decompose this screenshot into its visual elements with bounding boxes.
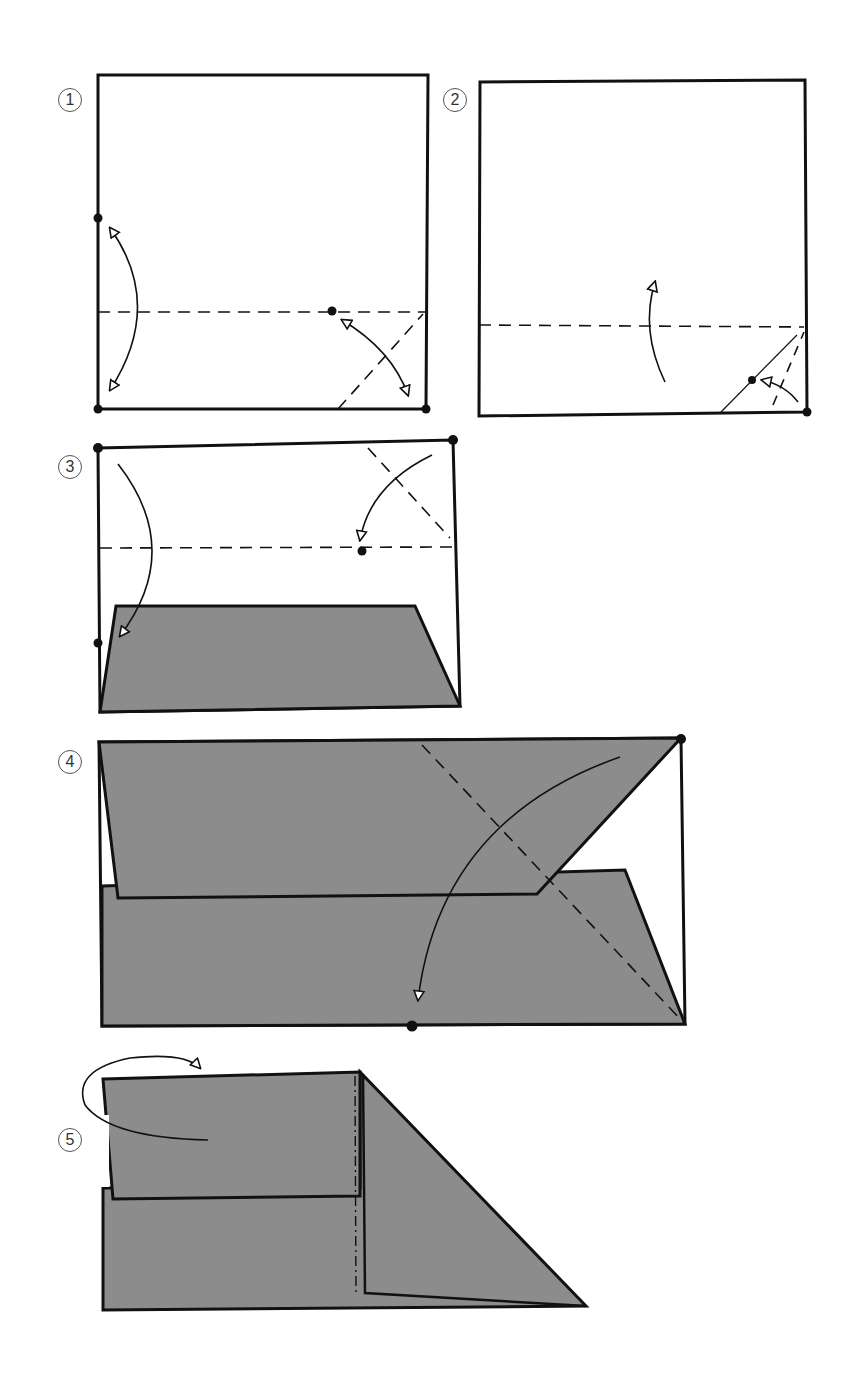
paper-square bbox=[98, 75, 428, 409]
reference-dot bbox=[358, 547, 367, 556]
step-5-diagram bbox=[83, 1056, 586, 1310]
step-number-2: 2 bbox=[443, 88, 467, 112]
reference-dot bbox=[94, 639, 103, 648]
paper-white-gap bbox=[100, 1115, 109, 1187]
reference-dot bbox=[93, 443, 103, 453]
step-3-diagram bbox=[93, 435, 460, 712]
step-1-diagram bbox=[94, 75, 431, 414]
step-4-diagram bbox=[99, 734, 686, 1032]
step-number-1: 1 bbox=[58, 88, 82, 112]
folded-flap-colored bbox=[100, 606, 460, 712]
reference-dot bbox=[676, 734, 686, 744]
reference-dot bbox=[422, 405, 431, 414]
step-number-5: 5 bbox=[58, 1128, 82, 1152]
upper-flap-colored bbox=[103, 1072, 360, 1199]
step-number-4: 4 bbox=[58, 750, 82, 774]
paper-square bbox=[479, 80, 807, 416]
reference-dot bbox=[407, 1021, 418, 1032]
reference-dot bbox=[94, 405, 103, 414]
reference-dot bbox=[448, 435, 458, 445]
reference-dot bbox=[328, 307, 337, 316]
step-number-3: 3 bbox=[58, 455, 82, 479]
step-2-diagram bbox=[479, 80, 812, 417]
reference-dot bbox=[803, 408, 812, 417]
origami-diagram bbox=[0, 0, 863, 1379]
reference-dot bbox=[748, 376, 756, 384]
reference-dot bbox=[94, 214, 103, 223]
